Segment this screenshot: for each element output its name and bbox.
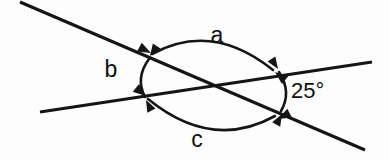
angle-label-b: b: [105, 56, 118, 82]
angle-label-a: a: [211, 22, 224, 48]
geometry-figure: a b c 25°: [0, 0, 389, 160]
arc-known-angle-top-arrowhead: [268, 56, 282, 71]
angle-diagram-canvas: a b c 25°: [0, 0, 389, 160]
angle-label-known: 25°: [291, 78, 324, 103]
angle-label-c: c: [191, 126, 203, 152]
